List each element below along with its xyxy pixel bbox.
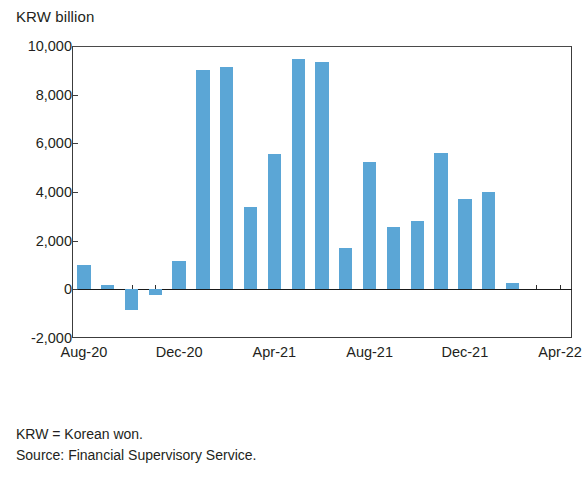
x-axis-tick-label: Dec-21 <box>441 344 488 360</box>
y-axis-tick-labels: 10,0008,0006,0004,0002,0000-2,000 <box>0 0 72 479</box>
y-axis-tick-mark <box>72 143 78 144</box>
footnotes: KRW = Korean won. Source: Financial Supe… <box>16 424 256 466</box>
y-axis-tick-label: 2,000 <box>6 233 72 249</box>
x-axis-tick-label: Aug-21 <box>346 344 393 360</box>
bar <box>125 289 138 310</box>
y-axis-tick-label: 6,000 <box>6 135 72 151</box>
bar <box>244 207 257 290</box>
y-axis-tick-mark <box>72 241 78 242</box>
x-axis-tick-mark <box>560 285 561 289</box>
bar <box>149 289 162 295</box>
bar <box>292 59 305 290</box>
bar <box>506 283 519 289</box>
chart-figure: KRW billion 10,0008,0006,0004,0002,0000-… <box>0 0 588 479</box>
bar <box>363 162 376 290</box>
x-axis-tick-mark <box>536 285 537 289</box>
footnote-abbreviation: KRW = Korean won. <box>16 424 256 445</box>
bar <box>482 192 495 289</box>
y-axis-tick-mark <box>72 192 78 193</box>
bar <box>268 154 281 289</box>
bar <box>220 67 233 290</box>
x-axis-tick-label: Dec-20 <box>156 344 203 360</box>
bar <box>196 70 209 289</box>
bar <box>339 248 352 289</box>
bar <box>387 227 400 289</box>
zero-baseline <box>72 289 572 290</box>
y-axis-tick-label: 10,000 <box>6 38 72 54</box>
y-axis-tick-mark <box>72 95 78 96</box>
footnote-source: Source: Financial Supervisory Service. <box>16 445 256 466</box>
y-axis-tick-label: 4,000 <box>6 184 72 200</box>
y-axis-tick-label: 8,000 <box>6 87 72 103</box>
bar <box>411 221 424 290</box>
x-axis-tick-label: Apr-22 <box>538 344 582 360</box>
bar-series-layer <box>72 46 572 338</box>
bar <box>315 62 328 290</box>
bar <box>458 199 471 290</box>
bar <box>101 285 114 289</box>
y-axis-tick-label: 0 <box>6 281 72 297</box>
bar <box>434 153 447 289</box>
bar <box>77 265 90 290</box>
bar <box>172 261 185 290</box>
y-axis-tick-mark <box>72 289 78 290</box>
x-axis-tick-label: Aug-20 <box>61 344 108 360</box>
x-axis-tick-label: Apr-21 <box>253 344 297 360</box>
